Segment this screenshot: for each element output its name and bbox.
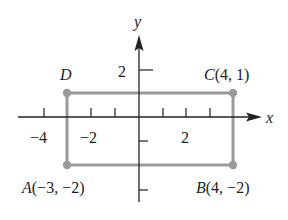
tick-label-2x: 2 (181, 129, 189, 146)
coordinate-diagram: x y −4 −2 2 2 D C(4, 1) A(−3, −2) B(4, −… (0, 0, 288, 220)
tick-label-neg2: −2 (80, 129, 97, 146)
point-B (229, 161, 237, 169)
x-ticks (44, 108, 210, 117)
point-A (63, 161, 71, 169)
tick-label-2y: 2 (118, 63, 126, 80)
point-C (229, 89, 237, 97)
y-ticks (139, 70, 153, 190)
point-D (63, 89, 71, 97)
y-axis-label: y (132, 13, 142, 31)
point-label-D: D (59, 66, 72, 83)
point-label-C: C(4, 1) (204, 66, 249, 84)
tick-label-neg4: −4 (30, 129, 47, 146)
point-label-A: A(−3, −2) (21, 179, 84, 197)
x-axis-label: x (265, 109, 273, 126)
point-label-B: B(4, −2) (196, 179, 249, 197)
